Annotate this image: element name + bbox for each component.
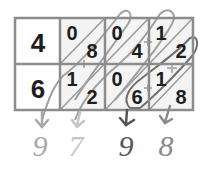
arrow-down-icon [36, 112, 48, 127]
cell-tens-digit: 1 [155, 22, 166, 44]
cell-ones-digit: 6 [131, 86, 142, 108]
cell-tens-digit: 1 [66, 68, 77, 90]
cell-ones-digit: 4 [131, 40, 143, 62]
cell-ones-digit: 2 [86, 86, 97, 108]
arrow-down-icon [120, 110, 134, 125]
cell-tens-digit: 1 [155, 68, 166, 90]
cell-ones-digit: 8 [175, 86, 186, 108]
cell-ones-digit: 8 [86, 40, 97, 62]
row-label: 6 [31, 74, 45, 104]
result-digit: 7 [69, 129, 86, 162]
result-digit: 8 [159, 129, 174, 162]
cell-tens-digit: 0 [66, 22, 77, 44]
result-digit: 9 [119, 129, 134, 162]
cell-tens-digit: 0 [111, 22, 122, 44]
cell-ones-digit: 2 [175, 40, 186, 62]
cell-tens-digit: 0 [111, 68, 122, 90]
result-digit: 9 [33, 129, 48, 162]
row-label: 4 [31, 28, 46, 58]
lattice-diagram: 4 6 0 8 0 4 1 2 1 2 0 6 1 8 9 7 9 8 [0, 0, 207, 170]
